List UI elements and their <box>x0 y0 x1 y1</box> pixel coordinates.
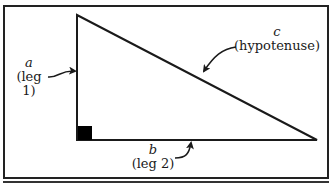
hypotenuse-label: c (hypotenuse) <box>232 25 322 53</box>
leg2-description: (leg 2) <box>130 157 176 171</box>
leg1-variable: a <box>8 56 50 70</box>
leg1-arrow-icon <box>48 71 75 77</box>
right-angle-marker-icon <box>78 126 92 140</box>
leg1-description: (leg 1) <box>8 70 50 98</box>
leg2-arrow-icon <box>175 143 191 158</box>
leg1-label: a (leg 1) <box>8 56 50 98</box>
hypotenuse-description: (hypotenuse) <box>232 39 322 53</box>
leg2-label: b (leg 2) <box>130 143 176 171</box>
hypotenuse-variable: c <box>232 25 322 39</box>
leg2-variable: b <box>130 143 176 157</box>
